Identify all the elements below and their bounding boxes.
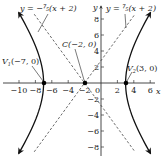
vertex-v1-point [42,81,47,86]
center-leader [75,49,84,80]
asym-neg-leader [38,14,48,32]
x-tick-label: −10 [11,86,28,95]
vertex-v2-point [124,81,129,86]
y-tick-label: −8 [87,143,99,152]
asym-pos-leader [125,14,126,28]
x-tick-label: 6 [148,86,153,95]
x-axis-label: x [156,87,161,96]
hyperbola-plot: x y −10−8−6−4−20246 8642−2−4−6−8 y = −7/… [0,0,162,166]
y-tick-label: −2 [87,95,99,104]
v1-leader [32,66,43,81]
x-tick-label: 2 [115,86,120,95]
y-tick-label: 6 [94,31,99,40]
y-tick-label: −6 [87,127,99,136]
x-tick-label: −6 [46,86,58,95]
asym-neg-label: y = −7/5(x + 2) [19,3,77,13]
x-ticks: −10−8−6−4−20246 [11,80,153,95]
x-tick-label: −4 [62,86,74,95]
v1-label: V1(−7, 0) [2,57,39,67]
center-point [83,81,88,86]
asym-pos-label: y = 7/5(x + 2) [105,3,156,13]
y-tick-label: 8 [94,15,99,24]
y-tick-label: −4 [87,111,99,120]
v2-leader [127,72,132,81]
annotations: y = −7/5(x + 2) y = 7/5(x + 2) V1(−7, 0)… [2,3,157,74]
x-tick-label: 4 [131,86,136,95]
center-label: C(−2, 0) [62,40,96,49]
x-tick-label: 0 [95,86,100,95]
y-axis-label: y [92,3,98,12]
x-tick-label: −8 [30,86,42,95]
y-ticks: 8642−2−4−6−8 [87,15,104,152]
v2-label: V2(3, 0) [127,64,157,74]
x-tick-label: −2 [79,86,91,95]
